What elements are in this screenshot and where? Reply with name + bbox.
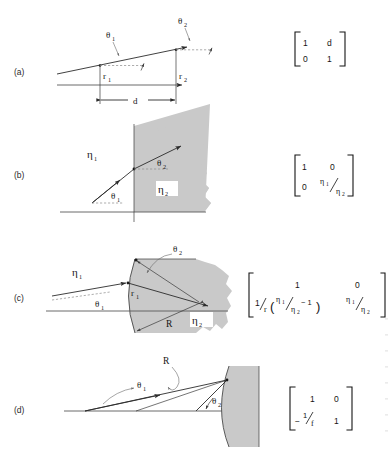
matrix-b: 1 0 0 η 1 η 2 — [295, 155, 353, 197]
svg-text:R: R — [163, 356, 170, 366]
radius-label-d: R — [163, 356, 179, 390]
panel-d-label: (d) — [14, 405, 25, 415]
svg-text:(: ( — [270, 299, 275, 314]
panel-d: (d) θ 1 θ — [14, 356, 352, 447]
svg-text:2: 2 — [342, 191, 345, 197]
theta2-label-a: θ 2 — [178, 16, 190, 41]
svg-text:η: η — [320, 177, 324, 186]
svg-text:η: η — [158, 183, 164, 195]
svg-text:− 1: − 1 — [301, 298, 312, 307]
svg-text:η: η — [336, 187, 340, 196]
distance-dimension-a: d — [100, 85, 176, 106]
svg-text:1: 1 — [303, 411, 307, 420]
ray-line-a — [57, 47, 187, 74]
svg-text:θ: θ — [212, 396, 216, 406]
eta2-label-c: η 2 — [190, 312, 213, 328]
svg-text:η: η — [291, 305, 295, 314]
svg-text:θ: θ — [178, 16, 182, 26]
svg-text:2: 2 — [163, 163, 166, 170]
matrix-d-r1c1: 1 — [310, 394, 315, 404]
svg-text:2: 2 — [297, 309, 300, 315]
svg-text:θ: θ — [111, 191, 115, 201]
matrix-b-r1c1: 1 — [302, 162, 307, 172]
matrix-b-r2c2: η 1 η 2 — [320, 177, 345, 197]
optics-figure: (a) θ 1 θ — [0, 0, 389, 454]
svg-text:η: η — [276, 295, 280, 304]
matrix-d-r2c2: 1 — [334, 416, 339, 426]
matrix-c-r1c1: 1 — [295, 280, 300, 290]
mirror-body-d — [222, 366, 260, 447]
svg-text:2: 2 — [184, 76, 187, 83]
eta2-label-b: η 2 — [156, 181, 178, 197]
svg-text:r: r — [103, 71, 106, 81]
theta1-label-a: θ 1 — [106, 30, 119, 56]
svg-text:1: 1 — [136, 293, 139, 300]
svg-text:1: 1 — [108, 76, 111, 83]
svg-text:1: 1 — [143, 385, 146, 392]
theta2-label-d: θ 2 — [206, 396, 221, 409]
reflection-point-d — [226, 379, 229, 382]
svg-text:η: η — [192, 314, 198, 326]
medium-region-c — [129, 259, 233, 333]
svg-text:2: 2 — [199, 321, 202, 328]
entry-point-c — [127, 282, 130, 285]
svg-text:θ: θ — [137, 380, 141, 390]
svg-text:r: r — [264, 305, 267, 314]
svg-text:1: 1 — [112, 35, 115, 42]
theta1-label-b: θ 1 — [111, 191, 120, 203]
angle-arrow-a2 — [209, 48, 212, 55]
matrix-b-r2c1: 0 — [302, 182, 307, 192]
matrix-a-r2c1: 0 — [303, 54, 308, 64]
svg-text:η: η — [346, 295, 350, 304]
svg-text:η: η — [72, 266, 78, 278]
matrix-c: 1 0 1 r ( η 1 η 2 − 1 ) — [249, 273, 385, 317]
svg-text:2: 2 — [179, 249, 182, 256]
svg-text:−: − — [295, 416, 300, 426]
panel-b: (b) θ 1 — [14, 104, 353, 222]
svg-text:1: 1 — [255, 298, 260, 308]
svg-text:θ: θ — [173, 244, 177, 254]
svg-text:1: 1 — [352, 299, 355, 305]
matrix-c-r2c2: η 1 η 2 — [346, 295, 370, 315]
matrix-c-r1c2: 0 — [355, 280, 360, 290]
r2-label-a: r 2 — [179, 71, 187, 83]
matrix-a-r1c1: 1 — [303, 38, 308, 48]
svg-text:r: r — [131, 288, 134, 298]
theta1-label-d: θ 1 — [103, 380, 146, 404]
angle-arrow-a1 — [141, 64, 144, 71]
r1-label-a: r 1 — [103, 71, 111, 83]
svg-text:2: 2 — [218, 401, 221, 408]
svg-text:1: 1 — [117, 196, 120, 203]
svg-text:1: 1 — [79, 273, 82, 280]
svg-text:θ: θ — [106, 30, 110, 40]
svg-text:1: 1 — [94, 155, 97, 162]
panel-a: (a) θ 1 θ — [14, 16, 345, 106]
svg-text:1: 1 — [101, 304, 104, 311]
panel-b-label: (b) — [14, 170, 25, 180]
panel-c-label: (c) — [14, 293, 24, 303]
incident-ray-extension-c — [52, 292, 110, 300]
matrix-d: 1 0 − 1 f 1 — [290, 387, 352, 430]
panel-a-label: (a) — [14, 67, 25, 77]
svg-text:): ) — [316, 299, 320, 314]
matrix-c-r2c1: 1 r ( η 1 η 2 − 1 ) — [255, 295, 320, 315]
svg-text:2: 2 — [367, 309, 370, 315]
svg-text:2: 2 — [184, 21, 187, 28]
svg-text:η: η — [87, 148, 93, 160]
svg-text:r: r — [179, 71, 182, 81]
radius-label-c: R — [166, 319, 173, 329]
svg-text:1: 1 — [326, 181, 329, 187]
panel-c: (c) θ 1 — [14, 244, 385, 333]
eta1-label-c: η 1 — [72, 266, 82, 280]
matrix-b-r1c2: 0 — [330, 162, 335, 172]
incident-ray-arrow-d — [85, 395, 160, 411]
incident-ray-arrow-b — [92, 180, 120, 203]
matrix-a-r1c2: d — [327, 38, 332, 48]
incident-ray-c — [52, 283, 126, 296]
page-edge-artifacts — [385, 318, 388, 432]
matrix-d-r1c2: 0 — [334, 394, 339, 404]
svg-text:f: f — [311, 419, 314, 428]
eta1-label-b: η 1 — [87, 148, 97, 162]
svg-text:2: 2 — [165, 190, 168, 197]
theta1-label-c: θ 1 — [95, 299, 104, 311]
